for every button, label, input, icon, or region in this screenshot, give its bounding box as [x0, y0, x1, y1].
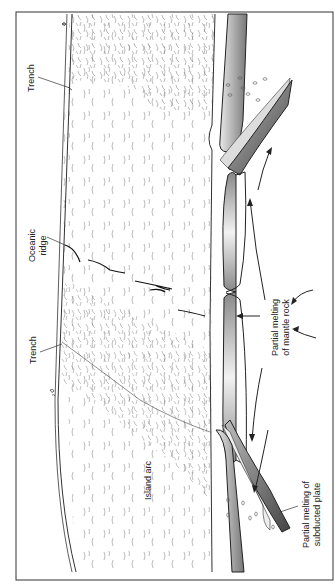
leader-trench-bottom [40, 344, 62, 352]
volcano-marker-bottom [50, 389, 55, 396]
flow-arrow-up [250, 200, 265, 300]
flow-arrow-down [252, 368, 262, 440]
label-oceanic-ridge: Oceanic ridge [27, 229, 49, 262]
leader-partial-melting-plate [280, 506, 298, 512]
overriding-plate-top [220, 14, 247, 152]
label-partial-melting-mantle-line2: of mantle rock [281, 299, 292, 356]
label-oceanic-ridge-line2: ridge [38, 229, 49, 262]
label-partial-melting-mantle: Partial melting of mantle rock [270, 299, 292, 356]
label-partial-melting-plate-line2: subducted plate [312, 481, 323, 548]
label-partial-melting-mantle-line1: Partial melting [270, 299, 281, 356]
label-oceanic-ridge-line1: Oceanic [27, 229, 38, 262]
label-partial-melting-plate: Partial melting of subducted plate [301, 481, 323, 548]
spreading-plate-upper [223, 173, 236, 293]
flow-arrow-top-curve [258, 150, 270, 190]
label-trench-top: Trench [26, 64, 36, 92]
label-island-arc: Island arc [143, 461, 153, 500]
volcano-marker-top [62, 23, 66, 26]
arrowhead-ridge [236, 313, 243, 319]
subduction-diagram: Trench Oceanic ridge Trench Partial melt… [0, 0, 335, 584]
arrowhead-down [249, 434, 255, 442]
diagram-canvas [0, 0, 335, 584]
label-partial-melting-plate-line1: Partial melting of [301, 481, 312, 548]
label-trench-bottom: Trench [28, 336, 38, 364]
arrowhead-up [247, 198, 253, 206]
